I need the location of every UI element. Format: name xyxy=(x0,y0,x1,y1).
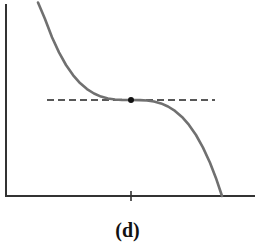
diagram-figure xyxy=(0,0,255,246)
inflection-point xyxy=(128,97,134,103)
figure-caption: (d) xyxy=(0,219,255,242)
